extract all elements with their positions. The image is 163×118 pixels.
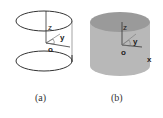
- z-label: z: [48, 23, 52, 32]
- panel-a: z y o (a): [0, 0, 82, 118]
- x-label: x: [147, 55, 151, 64]
- cylinder-top: [90, 12, 150, 32]
- y-label: y: [60, 33, 64, 42]
- angle-arc: [46, 39, 54, 44]
- caption-b: (b): [111, 92, 123, 103]
- caption-a: (a): [35, 92, 46, 103]
- top-circle: [16, 11, 72, 31]
- z-label: z: [123, 23, 127, 32]
- y-label: y: [133, 37, 137, 46]
- bottom-circle: [16, 51, 72, 71]
- origin-label: o: [121, 48, 126, 57]
- origin-label: o: [48, 45, 53, 54]
- panel-b: z y o x (b): [82, 0, 163, 118]
